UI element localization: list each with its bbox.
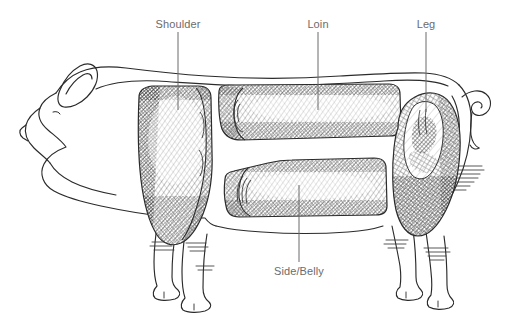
- pork-cuts-diagram: Shoulder Loin Leg Side/Belly: [0, 0, 510, 323]
- hind-legs: [392, 226, 454, 309]
- leader-lines: [178, 32, 426, 262]
- cut-region-shoulder[interactable]: [135, 82, 217, 248]
- cut-region-side-belly[interactable]: [220, 155, 392, 221]
- tail-icon: [462, 91, 491, 149]
- label-shoulder: Shoulder: [156, 18, 201, 31]
- label-leg: Leg: [417, 18, 436, 31]
- label-side-belly: Side/Belly: [274, 265, 324, 278]
- label-loin: Loin: [307, 18, 328, 31]
- pig-illustration: [0, 0, 510, 323]
- cut-region-loin[interactable]: [215, 80, 405, 144]
